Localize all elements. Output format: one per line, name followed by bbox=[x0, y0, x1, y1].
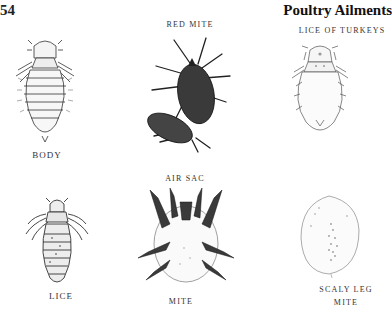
caption-scaly-leg-mite: MITE bbox=[326, 298, 366, 307]
louse-illustration-icon bbox=[22, 194, 92, 290]
caption-body: BODY bbox=[22, 150, 72, 160]
caption-lice: LICE bbox=[36, 291, 86, 301]
red-mite-illustration-icon bbox=[140, 36, 240, 154]
caption-air-sac: AIR SAC bbox=[150, 174, 220, 183]
running-head: Poultry Ailments bbox=[283, 2, 392, 19]
page-number: 54 bbox=[0, 2, 15, 19]
turkey-louse-illustration-icon bbox=[290, 42, 350, 142]
caption-scaly-leg: SCALY LEG bbox=[306, 285, 386, 294]
caption-turkey-lice: LICE OF TURKEYS bbox=[292, 26, 392, 35]
body-louse-illustration-icon bbox=[12, 36, 78, 144]
scaly-leg-mite-illustration-icon bbox=[295, 194, 365, 278]
air-sac-mite-illustration-icon bbox=[136, 188, 236, 288]
caption-red-mite: RED MITE bbox=[150, 20, 230, 29]
caption-mite: MITE bbox=[156, 297, 206, 306]
